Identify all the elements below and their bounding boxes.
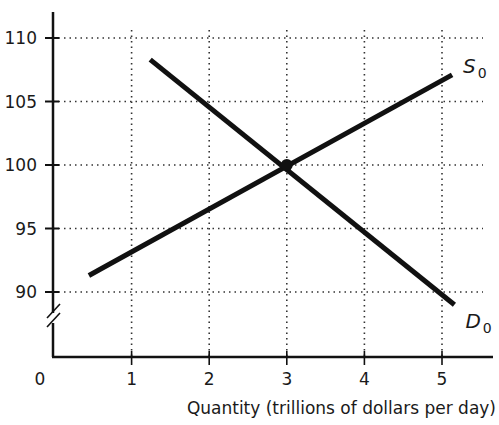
y-tick-label-95: 95 [15,219,37,239]
curve-label-s0: S0 [463,54,487,81]
x-tick-label-5: 5 [437,369,448,389]
curve-label-d0: D0 [465,309,491,336]
curves: S0D0 [89,54,492,336]
y-tick-label-110: 110 [5,28,37,48]
curve-s0 [89,75,452,276]
equilibrium-point [281,159,293,171]
x-tick-label-4: 4 [359,369,370,389]
supply-demand-chart: 9095100105110123450 S0D0 Quantity (trill… [0,0,499,425]
x-tick-label-1: 1 [126,369,137,389]
x-origin-label: 0 [35,369,46,389]
axes [45,12,493,365]
y-tick-label-105: 105 [5,92,37,112]
tick-labels: 9095100105110123450 [5,28,448,389]
y-tick-label-90: 90 [15,282,37,302]
x-tick-label-3: 3 [281,369,292,389]
grid-lines [53,30,483,357]
x-tick-label-2: 2 [204,369,215,389]
y-tick-label-100: 100 [5,155,37,175]
x-axis-title: Quantity (trillions of dollars per day) [187,398,496,418]
